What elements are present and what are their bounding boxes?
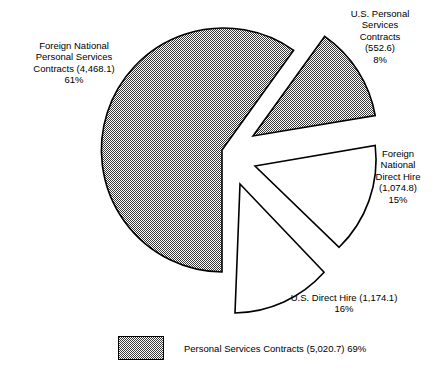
legend-label-personal-services-contracts: Personal Services Contracts (5,020.7) 69… [184,343,366,354]
pie-label-foreign-national-psc: Foreign National Personal Services Contr… [8,40,140,86]
pie-chart-figure: Foreign National Personal Services Contr… [0,0,436,373]
pie-label-foreign-national-direct-hire: Foreign National Direct Hire (1,074.8) 1… [364,148,432,205]
pie-label-us-psc: U.S. Personal Services Contracts (552.6)… [330,8,430,65]
chart-legend: Personal Services Contracts (5,020.7) 69… [118,336,366,360]
pie-label-us-direct-hire: U.S. Direct Hire (1,174.1) 16% [258,292,430,315]
legend-swatch-personal-services-contracts [118,336,164,360]
